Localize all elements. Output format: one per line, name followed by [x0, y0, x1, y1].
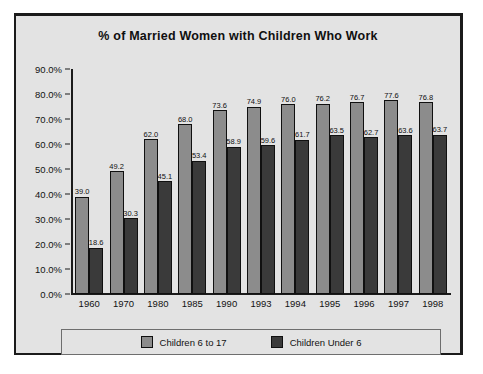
x-axis-label: 1960: [79, 298, 100, 309]
bar-fill: [364, 137, 378, 294]
bar-fill: [75, 197, 89, 295]
bar-fill: [158, 181, 172, 294]
chart-figure: % of Married Women with Children Who Wor…: [0, 0, 483, 374]
bar-value-label: 61.7: [295, 131, 310, 139]
bar-value-label: 53.4: [192, 152, 207, 160]
y-axis-tick-mark: [65, 69, 70, 70]
bar-fill: [261, 145, 275, 294]
bar-value-label: 62.0: [144, 131, 159, 139]
bar-group: 68.053.4: [175, 69, 209, 294]
y-axis-tick-mark: [65, 169, 70, 170]
bar-group: 74.959.6: [244, 69, 278, 294]
bar-value-label: 49.2: [109, 163, 124, 171]
bar-value-label: 62.7: [364, 129, 379, 137]
bar-group: 76.762.7: [347, 69, 381, 294]
bar-fill: [384, 100, 398, 294]
bar-value-label: 45.1: [158, 173, 173, 181]
bar-group: 39.018.6: [72, 69, 106, 294]
y-axis-tick-mark: [65, 119, 70, 120]
bar-fill: [316, 104, 330, 295]
x-axis-label: 1990: [216, 298, 237, 309]
bar-group: 76.863.7: [416, 69, 450, 294]
x-axis-label: 1994: [285, 298, 306, 309]
bar-value-label: 59.6: [261, 137, 276, 145]
x-axis-label: 1970: [113, 298, 134, 309]
bar-fill: [144, 139, 158, 294]
bar-fill: [295, 140, 309, 294]
y-axis-tick-mark: [65, 269, 70, 270]
x-axis-labels: 1960197019801985199019931994199519961997…: [72, 298, 450, 314]
bar-fill: [227, 147, 241, 294]
bar-value-label: 63.5: [329, 127, 344, 135]
y-axis-tick-mark: [65, 94, 70, 95]
y-axis-tick-mark: [65, 144, 70, 145]
legend-label: Children Under 6: [290, 337, 362, 348]
legend-swatch-icon: [141, 336, 153, 348]
bar-value-label: 63.6: [398, 127, 413, 135]
legend-swatch-icon: [271, 336, 283, 348]
bar-fill: [89, 248, 103, 295]
bar-value-label: 77.6: [384, 92, 399, 100]
x-axis-label: 1980: [147, 298, 168, 309]
bar-fill: [192, 161, 206, 295]
bar-fill: [350, 102, 364, 294]
bar-fill: [398, 135, 412, 294]
bar-value-label: 76.8: [418, 94, 433, 102]
bar-fill: [419, 102, 433, 294]
y-axis-tick-mark: [65, 244, 70, 245]
x-axis-label: 1997: [388, 298, 409, 309]
bar-fill: [281, 104, 295, 294]
bar-value-label: 58.9: [226, 138, 241, 146]
bar-group: 76.263.5: [313, 69, 347, 294]
bar-fill: [178, 124, 192, 294]
y-axis-tick-mark: [65, 219, 70, 220]
x-axis-label: 1998: [422, 298, 443, 309]
bar-value-label: 76.0: [281, 96, 296, 104]
x-axis-label: 1993: [250, 298, 271, 309]
bar-fill: [433, 135, 447, 294]
bar-value-label: 68.0: [178, 116, 193, 124]
y-axis-tick-mark: [65, 294, 70, 295]
bar-group: 62.045.1: [141, 69, 175, 294]
chart-legend: Children 6 to 17Children Under 6: [61, 329, 441, 355]
x-axis-label: 1985: [182, 298, 203, 309]
legend-entry: Children 6 to 17: [141, 336, 227, 348]
x-axis-label: 1995: [319, 298, 340, 309]
bar-group: 76.061.7: [278, 69, 312, 294]
bar-value-label: 30.3: [123, 210, 138, 218]
legend-label: Children 6 to 17: [160, 337, 227, 348]
bar-value-label: 63.7: [432, 126, 447, 134]
bar-value-label: 76.7: [350, 94, 365, 102]
bar-fill: [124, 218, 138, 294]
plot-area: 39.018.649.230.362.045.168.053.473.658.9…: [72, 69, 450, 294]
bar-fill: [247, 107, 261, 294]
bar-group: 73.658.9: [209, 69, 243, 294]
y-axis-tick-mark: [65, 194, 70, 195]
bar-value-label: 39.0: [75, 188, 90, 196]
bar-value-label: 18.6: [89, 239, 104, 247]
bar-value-label: 74.9: [247, 98, 262, 106]
bar-fill: [110, 171, 124, 294]
legend-entry: Children Under 6: [271, 336, 362, 348]
x-axis-label: 1996: [354, 298, 375, 309]
bar-value-label: 76.2: [315, 95, 330, 103]
bar-value-label: 73.6: [212, 102, 227, 110]
bar-fill: [213, 110, 227, 294]
bar-group: 77.663.6: [381, 69, 415, 294]
bar-fill: [330, 135, 344, 294]
chart-panel: % of Married Women with Children Who Wor…: [14, 13, 463, 355]
chart-title: % of Married Women with Children Who Wor…: [16, 29, 460, 43]
bar-group: 49.230.3: [106, 69, 140, 294]
